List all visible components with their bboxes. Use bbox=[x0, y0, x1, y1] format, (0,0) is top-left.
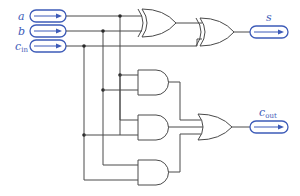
and-gate-2 bbox=[138, 115, 169, 140]
input-a-label: a bbox=[18, 10, 25, 23]
or-gate bbox=[198, 114, 232, 140]
output-s-label: s bbox=[266, 11, 272, 24]
output-s: s bbox=[250, 11, 288, 38]
and-gate-3 bbox=[138, 160, 169, 185]
input-a: a bbox=[18, 10, 66, 23]
and-gate-1 bbox=[138, 70, 169, 95]
input-b: b bbox=[18, 25, 66, 38]
input-cin-label: cin bbox=[15, 40, 28, 54]
junction-dot bbox=[118, 14, 122, 18]
junction-dot bbox=[101, 29, 105, 33]
input-cin: cin bbox=[15, 40, 66, 54]
xor-gate-1 bbox=[138, 9, 176, 37]
full-adder-diagram: a b cin s bbox=[0, 0, 300, 196]
output-cout-label: cout bbox=[259, 106, 277, 120]
output-cout: cout bbox=[250, 106, 288, 133]
junction-dot bbox=[82, 44, 86, 48]
input-b-label: b bbox=[18, 25, 25, 38]
xor-gate-2 bbox=[196, 18, 234, 46]
